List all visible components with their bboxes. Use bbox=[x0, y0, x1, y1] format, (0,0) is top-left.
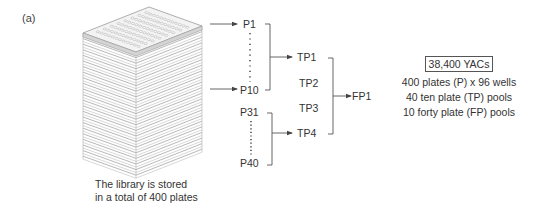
caption-line-1: The library is stored bbox=[95, 178, 198, 191]
bracket-p31-p40 bbox=[267, 113, 272, 165]
plate-label-p40: P40 bbox=[240, 157, 259, 169]
pool-label-fp1: FP1 bbox=[352, 90, 371, 102]
caption-line-2: in a total of 400 plates bbox=[95, 191, 198, 204]
summary-line-plates: 400 plates (P) x 96 wells bbox=[400, 76, 518, 88]
stack-caption: The library is stored in a total of 400 … bbox=[95, 178, 198, 204]
plate-stack-icon bbox=[83, 7, 202, 178]
plate-label-p1: P1 bbox=[243, 18, 256, 30]
pool-label-tp1: TP1 bbox=[297, 51, 316, 63]
bracket-tp1-tp4 bbox=[328, 58, 333, 134]
pool-label-tp4: TP4 bbox=[297, 127, 316, 139]
pool-label-tp3: TP3 bbox=[299, 102, 318, 114]
total-yacs-box: 38,400 YACs bbox=[425, 56, 493, 72]
plate-label-p10: P10 bbox=[240, 84, 259, 96]
summary-line-tp-pools: 40 ten plate (TP) pools bbox=[400, 91, 518, 103]
plate-label-p31: P31 bbox=[240, 106, 259, 118]
summary-line-fp-pools: 10 forty plate (FP) pools bbox=[400, 106, 518, 118]
pooling-diagram bbox=[0, 0, 540, 208]
bracket-p1-p10 bbox=[265, 24, 270, 90]
pool-label-tp2: TP2 bbox=[299, 77, 318, 89]
